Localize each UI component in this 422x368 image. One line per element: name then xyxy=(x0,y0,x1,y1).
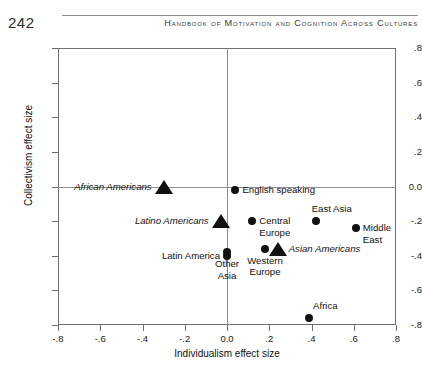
x-axis-title: Individualism effect size xyxy=(58,348,396,359)
y-axis-title: Collectivism effect size xyxy=(23,56,34,256)
x-tick-label: -.2 xyxy=(165,333,205,344)
point-label: Central Europe xyxy=(259,215,290,238)
x-tick-label: .4 xyxy=(292,333,332,344)
triangle-marker xyxy=(155,180,173,194)
y-tick-mark xyxy=(52,117,58,118)
point-label: African Americans xyxy=(74,181,152,193)
y-tick-label: .2 xyxy=(376,146,422,157)
y-tick-label: .8 xyxy=(376,42,422,53)
x-tick-label: -.8 xyxy=(38,333,78,344)
point-label: Middle East xyxy=(363,222,391,245)
x-tick-mark xyxy=(396,325,397,331)
scatter-chart: .8.6.4.20.0-.2-.4-.6-.8 -.8-.6-.4-.20.0.… xyxy=(0,0,422,368)
point-label: English speaking xyxy=(242,184,315,196)
x-tick-mark xyxy=(269,325,270,331)
x-tick-label: -.6 xyxy=(80,333,120,344)
point-label: Latino Americans xyxy=(135,215,209,227)
x-tick-mark xyxy=(312,325,313,331)
y-tick-mark xyxy=(52,48,58,49)
circle-marker xyxy=(223,252,231,260)
x-tick-mark xyxy=(227,325,228,331)
y-tick-mark xyxy=(52,290,58,291)
y-tick-mark xyxy=(52,152,58,153)
x-tick-mark xyxy=(185,325,186,331)
x-tick-label: .8 xyxy=(376,333,416,344)
point-label: Africa xyxy=(313,300,338,312)
point-label: Western Europe xyxy=(247,255,283,278)
triangle-marker xyxy=(269,242,287,256)
circle-marker xyxy=(352,224,360,232)
y-tick-mark xyxy=(52,221,58,222)
x-tick-label: .6 xyxy=(334,333,374,344)
x-tick-label: .2 xyxy=(249,333,289,344)
y-tick-label: -.4 xyxy=(376,250,422,261)
x-tick-mark xyxy=(100,325,101,331)
y-tick-mark xyxy=(52,187,58,188)
y-tick-label: 0.0 xyxy=(376,181,422,192)
x-tick-label: -.4 xyxy=(123,333,163,344)
triangle-marker xyxy=(212,214,230,228)
y-tick-label: -.8 xyxy=(376,319,422,330)
point-label: Asian Americans xyxy=(289,243,361,255)
point-label: Other Asia xyxy=(215,258,239,281)
x-tick-mark xyxy=(58,325,59,331)
y-tick-mark xyxy=(52,83,58,84)
x-tick-mark xyxy=(354,325,355,331)
y-tick-label: -.6 xyxy=(376,284,422,295)
point-label: East Asia xyxy=(312,203,352,215)
y-tick-label: .6 xyxy=(376,77,422,88)
circle-marker xyxy=(312,217,320,225)
y-tick-mark xyxy=(52,256,58,257)
point-label: Latin America xyxy=(162,250,220,262)
x-tick-mark xyxy=(143,325,144,331)
y-tick-label: .4 xyxy=(376,111,422,122)
x-tick-label: 0.0 xyxy=(207,333,247,344)
